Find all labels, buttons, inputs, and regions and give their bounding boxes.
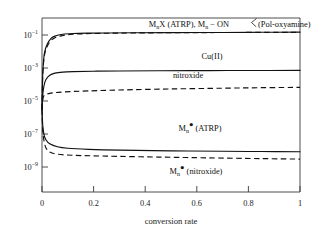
label-mn-radical-nitroxide: Mn● (nitroxide) <box>170 163 223 177</box>
y-axis-tick-labels: 10−1 10−3 10−5 10−7 10−9 <box>23 29 38 172</box>
xtick-label-0-8: 0.8 <box>243 199 253 208</box>
label-nitroxide: nitroxide <box>173 71 204 80</box>
nitroxide-bond-glyph <box>252 19 257 27</box>
curve-mn-radical-atrp <box>42 109 300 151</box>
curve-nitroxide <box>42 87 300 109</box>
xtick-label-1: 1 <box>298 199 302 208</box>
ytick-label-1e-1: 10−1 <box>23 29 38 40</box>
label-mn-radical-atrp: Mn● (ATRP) <box>178 120 221 134</box>
xtick-label-0: 0 <box>40 199 44 208</box>
xtick-label-0-6: 0.6 <box>192 199 202 208</box>
plot-frame <box>42 18 300 192</box>
curve-group <box>42 32 300 159</box>
ytick-label-1e-5: 10−5 <box>23 95 38 106</box>
axis-box <box>42 18 300 192</box>
label-cu2: Cu(II) <box>202 52 223 61</box>
xtick-label-0-2: 0.2 <box>88 199 98 208</box>
ytick-label-1e-7: 10−7 <box>23 128 38 139</box>
label-pol-oxyamine-tail: (Pol-oxyamine) <box>258 20 311 29</box>
x-axis-ticks <box>42 186 300 192</box>
ytick-label-1e-3: 10−3 <box>23 62 38 73</box>
xtick-label-0-4: 0.4 <box>140 199 151 208</box>
ytick-label-1e-9: 10−9 <box>23 161 38 172</box>
chart-figure: 10−1 10−3 10−5 10−7 10−9 0 0.2 0.4 0.6 0… <box>0 0 317 244</box>
semilog-plot: 10−1 10−3 10−5 10−7 10−9 0 0.2 0.4 0.6 0… <box>0 0 317 244</box>
x-axis-title: conversion rate <box>145 216 198 226</box>
x-axis-tick-labels: 0 0.2 0.4 0.6 0.8 1 <box>40 199 302 208</box>
label-mnx-oxyamine: MnX (ATRP), Mn − ON <box>149 20 229 30</box>
curve-cu-ii <box>42 70 300 109</box>
